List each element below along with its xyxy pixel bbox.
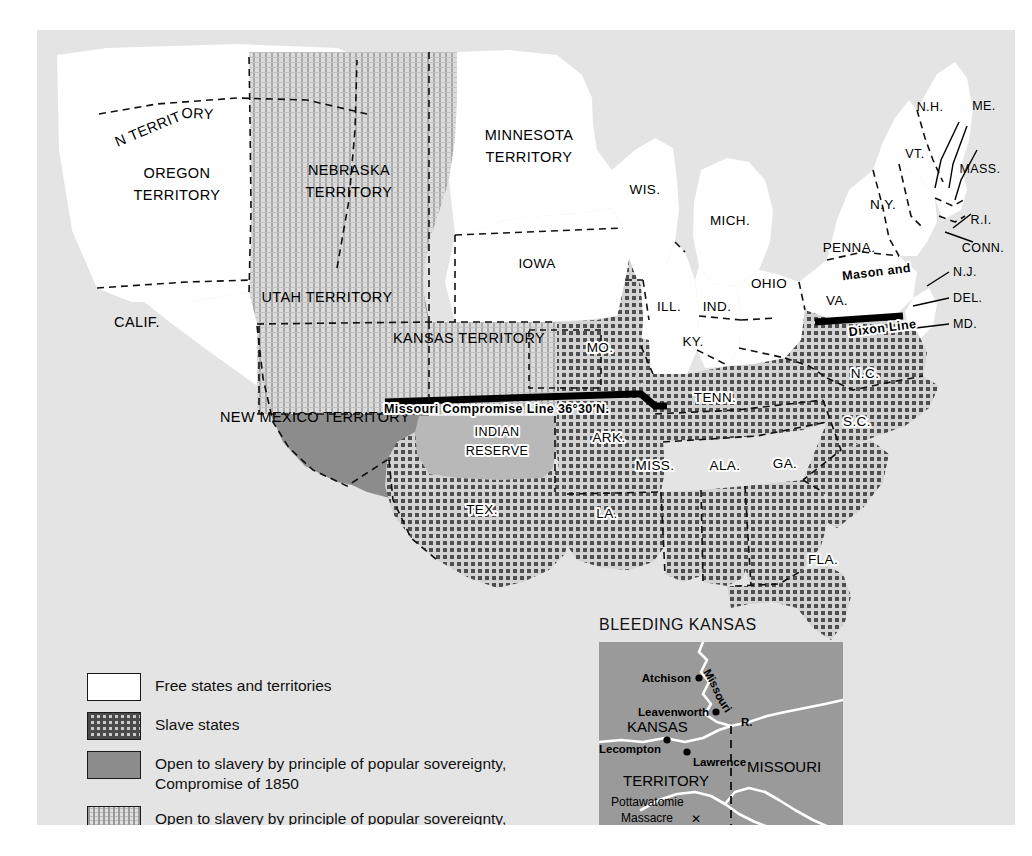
- label-michigan: MICH.: [710, 213, 750, 228]
- legend-item-popular-sovereignty-1850: Open to slavery by principle of popular …: [87, 751, 557, 795]
- inset-label-kansas: KANSAS: [627, 718, 688, 735]
- label-rhode-island: R.I.: [970, 213, 991, 227]
- label-new-hampshire: N.H.: [917, 100, 944, 114]
- inset-label-pottawatomie-line2: Massacre: [621, 811, 673, 825]
- label-tennessee: TENN.: [694, 390, 737, 405]
- label-new-jersey: N.J.: [953, 265, 977, 279]
- legend-swatch-compromise-1850: [87, 751, 141, 779]
- legend-kn1854-line1: Open to slavery by principle of popular …: [155, 809, 506, 825]
- label-vermont: VT.: [905, 147, 924, 161]
- legend-swatch-slave: [87, 712, 141, 740]
- inset-label-territory: TERRITORY: [623, 772, 709, 789]
- inset-label-atchison: Atchison: [642, 672, 691, 684]
- label-massachusetts: MASS.: [960, 162, 1001, 176]
- label-new-york: N.Y.: [870, 197, 896, 212]
- map-panel: WASHINGTON TERRITORY OREGON TERRITORY CA…: [37, 30, 1015, 825]
- label-louisiana: LA.: [596, 506, 617, 521]
- label-maryland: MD.: [953, 317, 977, 331]
- inset-label-lecompton: Lecompton: [599, 743, 661, 755]
- region-alabama: [701, 486, 751, 586]
- label-illinois: ILL.: [657, 299, 681, 314]
- label-arkansas: ARK.: [592, 430, 625, 445]
- inset-title: BLEEDING KANSAS: [599, 616, 757, 634]
- lecompton-dot: [663, 736, 670, 743]
- label-nebraska-territory-line2: TERRITORY: [306, 184, 393, 200]
- label-kansas-territory: KANSAS TERRITORY: [393, 330, 545, 346]
- inset-label-pottawatomie-line1: Pottawatomie: [611, 795, 684, 809]
- inset-map-bleeding-kansas: Atchison Leavenworth Lecompton Lawrence …: [599, 642, 843, 825]
- inset-label-lawrence: Lawrence: [693, 756, 746, 768]
- region-louisiana: [563, 492, 667, 570]
- label-new-mexico-territory: NEW MEXICO TERRITORY: [220, 409, 410, 425]
- label-florida: FLA.: [808, 552, 838, 567]
- legend-label-compromise-1850: Open to slavery by principle of popular …: [155, 751, 506, 795]
- legend-label-kansas-nebraska: Open to slavery by principle of popular …: [155, 806, 506, 825]
- label-indian-reserve-line1: INDIAN: [475, 425, 520, 439]
- label-south-carolina: S.C.: [843, 414, 871, 429]
- label-missouri-state: MO.: [587, 340, 614, 355]
- label-pennsylvania: PENNA.: [823, 240, 876, 255]
- legend-pop1850-line2: Compromise of 1850: [155, 774, 506, 794]
- lawrence-dot: [683, 748, 690, 755]
- legend-label-free: Free states and territories: [155, 673, 332, 696]
- label-minnesota-territory-line2: TERRITORY: [486, 149, 573, 165]
- label-indiana: IND.: [703, 299, 732, 314]
- atchison-dot: [695, 674, 702, 681]
- label-alabama: ALA.: [710, 458, 741, 473]
- label-ohio: OHIO: [751, 276, 787, 291]
- legend-swatch-kansas-nebraska: [87, 806, 141, 825]
- label-california: CALIF.: [114, 314, 160, 330]
- label-nebraska-territory-line1: NEBRASKA: [308, 162, 390, 178]
- label-minnesota-territory-line1: MINNESOTA: [485, 127, 574, 143]
- label-oregon-territory-line1: OREGON: [144, 165, 211, 181]
- label-connecticut: CONN.: [962, 241, 1004, 255]
- leavenworth-dot: [712, 708, 719, 715]
- legend-slave-line1: Slave states: [155, 715, 239, 735]
- label-maine: ME.: [972, 99, 995, 113]
- legend-item-slave-states: Slave states: [87, 712, 557, 740]
- label-texas: TEX.: [466, 502, 498, 517]
- label-missouri-compromise-line: Missouri Compromise Line 36°30′N.: [384, 402, 609, 416]
- region-mississippi: [661, 490, 707, 582]
- pottawatomie-massacre-marker-icon: ✕: [691, 812, 701, 825]
- inset-label-missouri-state: MISSOURI: [747, 758, 821, 775]
- inset-svg: Atchison Leavenworth Lecompton Lawrence …: [599, 642, 843, 825]
- label-north-carolina: N.C.: [851, 366, 880, 381]
- region-arkansas: [555, 414, 665, 494]
- legend-label-slave: Slave states: [155, 712, 239, 735]
- label-mississippi: MISS.: [636, 458, 675, 473]
- label-iowa: IOWA: [518, 256, 555, 271]
- label-georgia: GA.: [773, 456, 797, 471]
- label-wisconsin: WIS.: [630, 182, 661, 197]
- label-indian-reserve-line2: RESERVE: [466, 444, 528, 458]
- label-virginia: VA.: [826, 293, 848, 308]
- legend-item-kansas-nebraska-1854: Open to slavery by principle of popular …: [87, 806, 557, 825]
- inset-label-missouri-river-abbr: R.: [741, 716, 753, 728]
- label-kentucky: KY.: [682, 334, 703, 349]
- label-utah-territory: UTAH TERRITORY: [261, 289, 392, 305]
- legend-free-line1: Free states and territories: [155, 676, 332, 696]
- legend-swatch-free: [87, 673, 141, 701]
- inset-label-leavenworth: Leavenworth: [638, 706, 709, 718]
- label-delaware: DEL.: [953, 291, 982, 305]
- label-oregon-territory-line2: TERRITORY: [134, 187, 221, 203]
- legend: Free states and territories Slave states…: [87, 673, 557, 825]
- legend-pop1850-line1: Open to slavery by principle of popular …: [155, 754, 506, 774]
- legend-item-free-states: Free states and territories: [87, 673, 557, 701]
